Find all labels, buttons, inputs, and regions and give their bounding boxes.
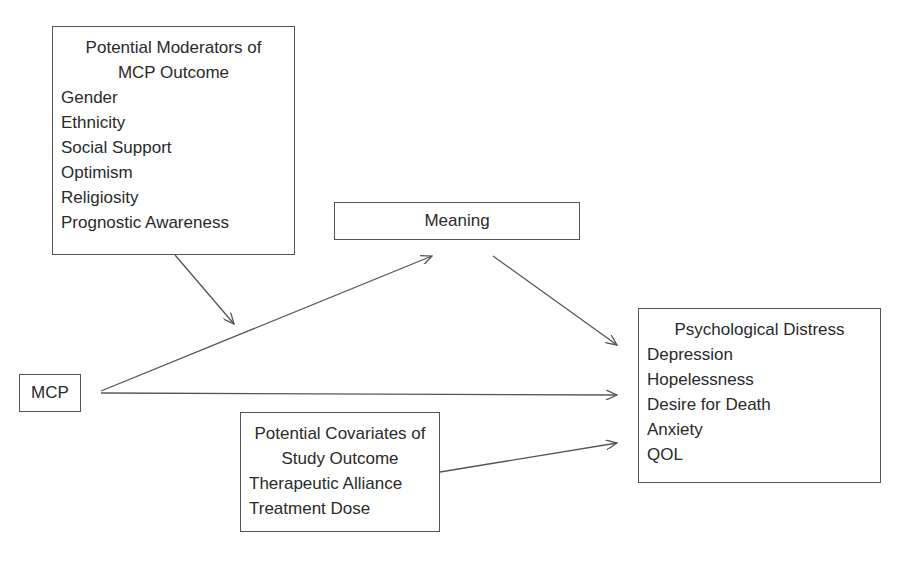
moderators-box: Potential Moderators of MCP Outcome Gend… xyxy=(52,26,295,255)
moderator-item: Gender xyxy=(53,85,294,110)
mcp-box: MCP xyxy=(19,374,81,412)
moderators-title-line2: MCP Outcome xyxy=(53,60,294,85)
distress-title: Psychological Distress xyxy=(639,317,880,342)
distress-item: Hopelessness xyxy=(639,367,880,392)
arrow-mcp-to-distress xyxy=(101,393,617,395)
meaning-label: Meaning xyxy=(335,203,579,238)
distress-box: Psychological Distress Depression Hopele… xyxy=(638,308,881,483)
moderator-item: Social Support xyxy=(53,135,294,160)
covariate-item: Therapeutic Alliance xyxy=(241,471,439,496)
moderators-title-line1: Potential Moderators of xyxy=(53,35,294,60)
covariates-title-line1: Potential Covariates of xyxy=(241,421,439,446)
covariates-title-line2: Study Outcome xyxy=(241,446,439,471)
moderator-item: Religiosity xyxy=(53,185,294,210)
moderator-item: Ethnicity xyxy=(53,110,294,135)
moderator-item: Prognostic Awareness xyxy=(53,210,294,235)
mcp-label: MCP xyxy=(20,375,80,410)
arrow-covariates-to-distress xyxy=(440,443,617,472)
distress-item: Depression xyxy=(639,342,880,367)
arrow-meaning-to-distress xyxy=(493,256,617,345)
distress-item: Anxiety xyxy=(639,417,880,442)
meaning-box: Meaning xyxy=(334,202,580,240)
covariates-box: Potential Covariates of Study Outcome Th… xyxy=(240,412,440,532)
arrow-mcp-to-meaning xyxy=(101,256,432,391)
distress-item: QOL xyxy=(639,442,880,467)
covariate-item: Treatment Dose xyxy=(241,496,439,521)
moderator-item: Optimism xyxy=(53,160,294,185)
arrow-moderators-to-path xyxy=(175,255,234,324)
distress-item: Desire for Death xyxy=(639,392,880,417)
